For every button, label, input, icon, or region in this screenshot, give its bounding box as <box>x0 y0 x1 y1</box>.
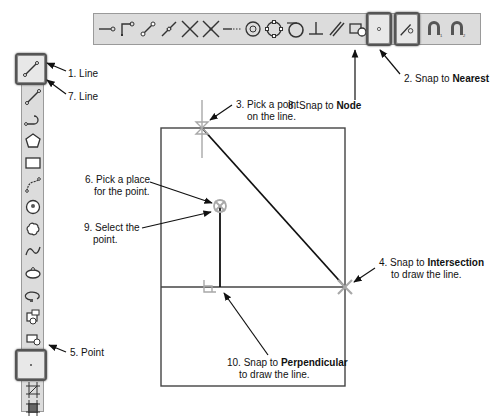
make-block-icon[interactable] <box>22 328 44 350</box>
line-button[interactable] <box>15 53 47 85</box>
spline-icon[interactable] <box>22 174 44 196</box>
callout-8-snap-node: 8. Snap to Node <box>288 100 361 112</box>
line-icon <box>21 59 41 79</box>
callout-5-point: 5. Point <box>70 347 104 359</box>
intersection-marker <box>338 280 352 294</box>
callout-7-line: 7. Line <box>68 91 98 103</box>
snap-magnet-2-icon[interactable]: 2 <box>446 18 468 40</box>
snap-extension-icon[interactable] <box>221 18 243 40</box>
ellipse-arc-icon[interactable] <box>22 284 44 306</box>
snap-center-icon[interactable] <box>242 18 264 40</box>
snap-node-icon <box>370 20 388 38</box>
arc-polyline-icon[interactable] <box>22 108 44 130</box>
gradient-icon[interactable] <box>22 397 44 419</box>
perpendicular-marker <box>204 280 216 292</box>
svg-text:1: 1 <box>440 33 443 38</box>
nearest-marker <box>196 100 208 158</box>
snap-quadrant-icon[interactable] <box>263 18 285 40</box>
snap-apparent-intersection-icon[interactable] <box>200 18 222 40</box>
wave-icon[interactable] <box>22 240 44 262</box>
callout-4-snap-intersection: 4. Snap to Intersectionto draw the line. <box>379 257 484 281</box>
diagonal-line <box>202 128 345 287</box>
drawing-rectangle <box>161 128 345 386</box>
node-marker <box>214 200 226 212</box>
callout-1-line: 1. Line <box>68 68 98 80</box>
polygon-icon[interactable] <box>22 130 44 152</box>
snap-nearest-icon <box>398 20 416 38</box>
callout-3-pick-point: 3. Pick a pointon the line. <box>236 99 299 123</box>
point-icon <box>22 356 40 374</box>
snap-corner-icon[interactable] <box>116 18 138 40</box>
snap-parallel-icon[interactable] <box>326 18 348 40</box>
callout-9-select-point: 9. Select thepoint. <box>84 222 140 246</box>
draw-toolbar <box>21 58 44 412</box>
snap-endpoint-icon[interactable] <box>96 18 118 40</box>
callout-6-pick-place: 6. Pick a placefor the point. <box>85 174 150 198</box>
snap-line-endpoints-icon[interactable] <box>137 18 159 40</box>
snap-intersection-icon[interactable] <box>179 18 201 40</box>
rectangle-icon[interactable] <box>22 152 44 174</box>
snap-node-button[interactable] <box>366 12 392 46</box>
insert-block-icon[interactable] <box>22 306 44 328</box>
callout-2-snap-nearest: 2. Snap to Nearest <box>404 73 489 85</box>
snap-magnet-1-icon[interactable]: 1 <box>423 18 445 40</box>
snap-midpoint-icon[interactable] <box>158 18 180 40</box>
point-button[interactable] <box>15 349 47 381</box>
line-alt-icon[interactable] <box>22 86 44 108</box>
revcloud-icon[interactable] <box>22 218 44 240</box>
object-snap-toolbar: 1 2 <box>93 13 481 45</box>
callout-10-snap-perpendicular: 10. Snap to Perpendicularto draw the lin… <box>227 357 348 381</box>
snap-perpendicular-icon[interactable] <box>305 18 327 40</box>
snap-tangent-icon[interactable] <box>284 18 306 40</box>
ellipse-icon[interactable] <box>22 262 44 284</box>
circle-icon[interactable] <box>22 196 44 218</box>
snap-nearest-button[interactable] <box>394 12 420 46</box>
svg-text:2: 2 <box>463 33 466 38</box>
